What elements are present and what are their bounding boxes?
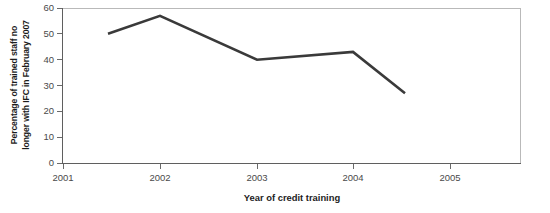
line-chart: Percentage of trained staff no longer wi…	[0, 0, 550, 213]
y-axis-tick: 40	[0, 55, 550, 65]
y-axis-tick-label: 40	[28, 55, 54, 65]
y-axis-tick-mark	[57, 8, 62, 9]
x-axis-tick-label: 2004	[323, 172, 383, 183]
y-axis-tick-label: 60	[28, 3, 54, 13]
y-axis-tick: 30	[0, 81, 550, 91]
y-axis-tick: 20	[0, 106, 550, 116]
x-axis-tick-mark	[160, 164, 161, 169]
y-axis-tick-mark	[57, 33, 62, 34]
y-axis-tick: 60	[0, 3, 550, 13]
y-axis-tick-label: 30	[28, 81, 54, 91]
y-axis-tick-label: 50	[28, 29, 54, 39]
x-axis-tick-label: 2001	[33, 172, 93, 183]
y-axis-tick-mark	[57, 85, 62, 86]
y-axis-tick: 0	[0, 158, 550, 168]
x-axis-tick-label: 2005	[420, 172, 480, 183]
y-axis-tick: 10	[0, 132, 550, 142]
y-axis-tick-mark	[57, 137, 62, 138]
y-axis-tick-mark	[57, 111, 62, 112]
x-axis-tick-label: 2002	[130, 172, 190, 183]
y-axis-tick-mark	[57, 59, 62, 60]
x-axis-tick-label: 2003	[227, 172, 287, 183]
x-axis-tick-mark	[353, 164, 354, 169]
y-axis-tick: 50	[0, 29, 550, 39]
y-axis-tick-label: 20	[28, 106, 54, 116]
x-axis-tick-mark	[63, 164, 64, 169]
y-axis-tick-label: 0	[28, 158, 54, 168]
x-axis-title: Year of credit training	[63, 192, 521, 204]
y-axis-tick-label: 10	[28, 132, 54, 142]
x-axis-tick-mark	[257, 164, 258, 169]
y-axis-tick-mark	[57, 163, 62, 164]
x-axis-tick-mark	[450, 164, 451, 169]
